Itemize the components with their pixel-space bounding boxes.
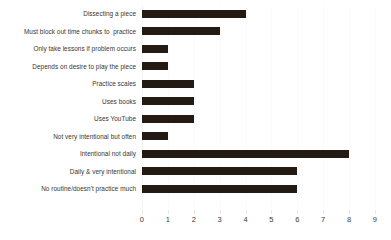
bar — [142, 185, 297, 193]
tick-mark-3 — [220, 210, 221, 214]
bar — [142, 167, 297, 175]
category-label: Must block out time chunks to practice — [0, 23, 136, 41]
bar-row: Daily & very intentional — [0, 163, 391, 181]
bar — [142, 97, 194, 105]
x-tick-label: 5 — [269, 215, 273, 224]
category-label: Intentional not daily — [0, 145, 136, 163]
category-label: Uses books — [0, 93, 136, 111]
category-label: Daily & very intentional — [0, 163, 136, 181]
tick-mark-0 — [142, 210, 143, 214]
bar-row: Practice scales — [0, 75, 391, 93]
bar-row: Intentional not daily — [0, 145, 391, 163]
bar — [142, 115, 194, 123]
bar-row: Only take lessons if problem occurs — [0, 40, 391, 58]
bar-row: Must block out time chunks to practice — [0, 23, 391, 41]
bar-row: Not very intentional but often — [0, 128, 391, 146]
bar — [142, 132, 168, 140]
category-label: No routine/doesn't practice much — [0, 180, 136, 198]
x-tick-label: 4 — [243, 215, 247, 224]
category-label: Only take lessons if problem occurs — [0, 40, 136, 58]
bar — [142, 27, 220, 35]
x-tick-label: 9 — [373, 215, 377, 224]
tick-mark-5 — [271, 210, 272, 214]
x-tick-label: 8 — [347, 215, 351, 224]
tick-mark-4 — [246, 210, 247, 214]
tick-mark-8 — [349, 210, 350, 214]
bar — [142, 150, 349, 158]
category-label: Dissecting a piece — [0, 5, 136, 23]
bar-row: Uses books — [0, 93, 391, 111]
bar — [142, 10, 246, 18]
x-tick-label: 7 — [321, 215, 325, 224]
bar-row: Depends on desire to play the piece — [0, 58, 391, 76]
tick-mark-9 — [375, 210, 376, 214]
category-label: Uses YouTube — [0, 110, 136, 128]
x-axis-line — [142, 210, 376, 211]
bar-row: No routine/doesn't practice much — [0, 180, 391, 198]
bar-row: Dissecting a piece — [0, 5, 391, 23]
x-tick-label: 3 — [218, 215, 222, 224]
tick-mark-7 — [323, 210, 324, 214]
tick-mark-2 — [194, 210, 195, 214]
category-label: Depends on desire to play the piece — [0, 58, 136, 76]
x-tick-label: 2 — [192, 215, 196, 224]
category-label: Practice scales — [0, 75, 136, 93]
x-tick-label: 0 — [140, 215, 144, 224]
bar — [142, 80, 194, 88]
bar-row: Uses YouTube — [0, 110, 391, 128]
bar — [142, 62, 168, 70]
bar — [142, 45, 168, 53]
category-label: Not very intentional but often — [0, 128, 136, 146]
x-tick-label: 1 — [166, 215, 170, 224]
tick-mark-1 — [168, 210, 169, 214]
x-tick-label: 6 — [295, 215, 299, 224]
horizontal-bar-chart: 0123456789 Dissecting a pieceMust block … — [0, 0, 391, 240]
tick-mark-6 — [297, 210, 298, 214]
